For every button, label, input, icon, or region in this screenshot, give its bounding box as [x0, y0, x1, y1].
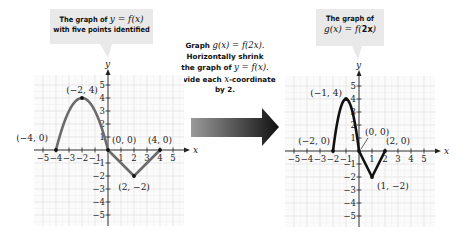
- y-tick-label: −5: [92, 210, 105, 220]
- x-tick-label: 2: [131, 153, 136, 163]
- point-label: (4, 0): [148, 135, 172, 145]
- x-tick-label: 5: [421, 154, 426, 164]
- point-label: (−2, 0): [298, 136, 330, 146]
- right-arrow-icon: [191, 108, 279, 146]
- left-graph: xy−5−4−3−2−11234554321−1−2−3−4−5(−4, 0)(…: [16, 59, 198, 226]
- point-label: (−1, 4): [310, 88, 342, 98]
- x-tick-label: 3: [395, 154, 400, 164]
- x-tick-label: 5: [170, 153, 175, 163]
- y-axis-arrow-icon: [106, 69, 111, 75]
- y-tick-label: 4: [100, 93, 105, 103]
- y-tick-label: 1: [351, 133, 356, 143]
- x-axis-label: x: [444, 146, 449, 156]
- y-tick-label: −1: [92, 158, 105, 168]
- diagram-canvas: xy−5−4−3−2−11234554321−1−2−3−4−5(−4, 0)(…: [0, 0, 467, 247]
- y-tick-label: 5: [100, 80, 105, 90]
- y-tick-label: 4: [351, 94, 356, 104]
- x-axis-arrow-icon: [435, 149, 441, 154]
- y-tick-label: 5: [351, 81, 356, 91]
- x-axis-label: x: [193, 145, 198, 155]
- point-marker: [54, 148, 58, 152]
- x-tick-label: −2: [327, 154, 340, 164]
- point-marker: [383, 149, 387, 153]
- x-tick-label: −3: [63, 153, 76, 163]
- point-label: (−4, 0): [16, 133, 48, 143]
- y-tick-label: −2: [92, 171, 105, 181]
- y-axis-label: y: [355, 60, 362, 70]
- point-label: (1, −2): [377, 181, 409, 191]
- right-callout-tail: [352, 46, 362, 60]
- point-label: (−2, 4): [66, 85, 98, 95]
- x-axis-arrow-icon: [184, 148, 190, 153]
- x-tick-label: 4: [408, 154, 413, 164]
- y-axis-arrow-icon: [357, 70, 362, 76]
- point-marker: [106, 148, 110, 152]
- point-label: (2, −2): [118, 182, 150, 192]
- point-marker: [158, 148, 162, 152]
- x-tick-label: 4: [157, 153, 162, 163]
- point-marker: [370, 175, 374, 179]
- y-axis-label: y: [104, 59, 111, 69]
- y-tick-label: 3: [100, 106, 105, 116]
- y-tick-label: −1: [343, 159, 356, 169]
- y-tick-label: −5: [343, 211, 356, 221]
- x-tick-label: −4: [301, 154, 314, 164]
- left-callout-tail: [100, 44, 112, 58]
- point-label: (2, 0): [386, 136, 410, 146]
- point-marker: [331, 149, 335, 153]
- x-tick-label: −4: [50, 153, 63, 163]
- x-tick-label: −5: [288, 154, 301, 164]
- x-tick-label: −3: [314, 154, 327, 164]
- x-tick-label: −5: [37, 153, 50, 163]
- y-tick-label: −4: [343, 198, 356, 208]
- y-tick-label: −3: [92, 184, 105, 194]
- point-marker: [357, 149, 361, 153]
- point-marker: [344, 97, 348, 101]
- point-label: (0, 0): [112, 135, 136, 145]
- point-marker: [80, 96, 84, 100]
- y-tick-label: −2: [343, 172, 356, 182]
- x-tick-label: 1: [369, 154, 374, 164]
- x-tick-label: −2: [76, 153, 89, 163]
- y-tick-label: −3: [343, 185, 356, 195]
- point-marker: [132, 174, 136, 178]
- right-graph: xy−5−4−3−2−11234554321−1−2−3−4−5(−2, 0)(…: [285, 60, 449, 227]
- y-tick-label: −4: [92, 197, 105, 207]
